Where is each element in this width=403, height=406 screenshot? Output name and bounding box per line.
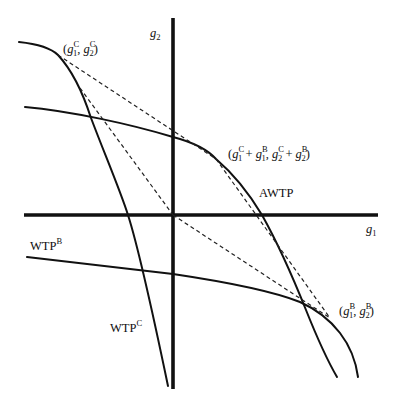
g1-axis-label: g1 (366, 222, 377, 238)
wtp-b-label: WTPB (30, 236, 62, 253)
awtp-label: AWTP (259, 186, 293, 200)
g2-axis-label: g2 (150, 26, 161, 42)
wtp-c-label: WTPC (110, 318, 142, 335)
dashed-wtpc-to-origin (80, 88, 173, 215)
point-c-label: (gC1, gC2) (63, 39, 98, 58)
dashed-origin-to-pb (173, 215, 330, 318)
wtp-diagram: g2 g1 (gC1, gC2) (gC1 + gB1, gC2 + gB2) … (0, 0, 403, 406)
point-sum-label: (gC1 + gB1, gC2 + gB2) (228, 144, 310, 163)
point-b-label: (gB1, gB2) (339, 301, 374, 320)
